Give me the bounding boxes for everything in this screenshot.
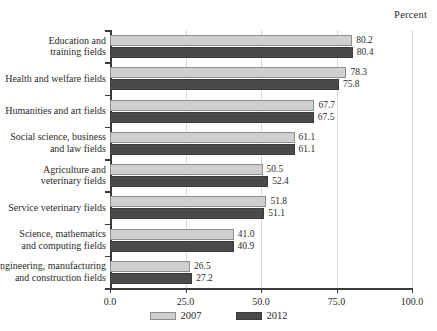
bar-2012[interactable] <box>110 208 264 219</box>
x-axis-tick <box>337 288 338 293</box>
bar-group: 50.552.4 <box>0 162 437 188</box>
bar-2012[interactable] <box>110 79 339 90</box>
bar-value-label: 80.2 <box>352 35 373 46</box>
bar-value-label: 80.4 <box>353 47 374 58</box>
bar-value-label: 51.8 <box>266 196 287 207</box>
y-axis-tick <box>105 224 110 226</box>
bar-2007[interactable] <box>110 100 314 111</box>
legend-swatch-icon <box>236 312 262 320</box>
x-axis-tick-label: 100.0 <box>401 296 424 307</box>
legend-entry-2012[interactable]: 2012 <box>236 310 288 321</box>
bar-2007[interactable] <box>110 67 346 78</box>
bar-2007[interactable] <box>110 164 263 175</box>
bar-value-label: 61.1 <box>295 144 316 155</box>
bar-2012[interactable] <box>110 176 268 187</box>
y-axis-tick <box>105 191 110 193</box>
bar-value-label: 52.4 <box>268 176 289 187</box>
x-axis-tick-label: 50.0 <box>252 296 270 307</box>
y-axis-tick <box>105 30 110 32</box>
y-axis-tick <box>105 159 110 161</box>
x-axis-tick <box>110 288 111 293</box>
bar-value-label: 67.5 <box>314 112 335 123</box>
bar-value-label: 67.7 <box>314 100 335 111</box>
legend-entry-2007[interactable]: 2007 <box>150 310 202 321</box>
bar-value-label: 51.1 <box>264 208 285 219</box>
x-axis-tick-label: 0.0 <box>104 296 117 307</box>
bar-group: 41.040.9 <box>0 227 437 253</box>
bar-2012[interactable] <box>110 241 234 252</box>
bar-2012[interactable] <box>110 47 353 58</box>
bar-value-label: 27.2 <box>192 273 213 284</box>
bar-group: 51.851.1 <box>0 194 437 220</box>
bar-value-label: 26.5 <box>190 261 211 272</box>
bar-value-label: 61.1 <box>295 132 316 143</box>
bar-group: 80.280.4 <box>0 33 437 59</box>
bar-chart: Percent Education andtraining fields80.2… <box>0 0 437 331</box>
bar-group: 78.375.8 <box>0 65 437 91</box>
legend-swatch-icon <box>150 312 176 320</box>
x-axis-tick <box>261 288 262 293</box>
bar-value-label: 75.8 <box>339 79 360 90</box>
y-axis-tick <box>105 95 110 97</box>
bar-group: 26.527.2 <box>0 259 437 285</box>
bar-2007[interactable] <box>110 35 352 46</box>
axis-unit-label: Percent <box>394 9 427 20</box>
bar-group: 61.161.1 <box>0 130 437 156</box>
legend: 20072012 <box>0 310 437 321</box>
bar-value-label: 78.3 <box>346 67 367 78</box>
bar-value-label: 41.0 <box>234 229 255 240</box>
bar-2007[interactable] <box>110 196 266 207</box>
bar-value-label: 40.9 <box>234 241 255 252</box>
bar-2007[interactable] <box>110 132 295 143</box>
x-axis-tick <box>186 288 187 293</box>
bar-group: 67.767.5 <box>0 98 437 124</box>
y-axis-tick <box>105 256 110 258</box>
legend-label: 2012 <box>267 310 288 321</box>
x-axis-tick-label: 25.0 <box>177 296 195 307</box>
y-axis-tick <box>105 62 110 64</box>
bar-value-label: 50.5 <box>263 164 284 175</box>
bar-2012[interactable] <box>110 144 295 155</box>
bar-2007[interactable] <box>110 229 234 240</box>
legend-label: 2007 <box>181 310 202 321</box>
bar-2007[interactable] <box>110 261 190 272</box>
x-axis-tick <box>412 288 413 293</box>
y-axis-tick <box>105 127 110 129</box>
bar-2012[interactable] <box>110 112 314 123</box>
x-axis-tick-label: 75.0 <box>328 296 346 307</box>
bar-2012[interactable] <box>110 273 192 284</box>
